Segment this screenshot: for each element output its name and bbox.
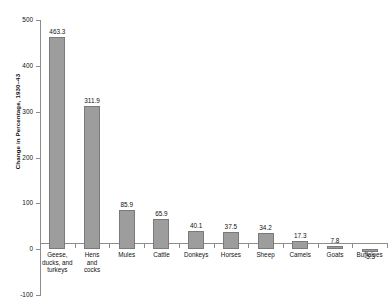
y-axis-tick <box>36 158 41 159</box>
x-axis-tick <box>214 243 215 248</box>
x-axis-category-label: Buffaloes <box>346 251 389 259</box>
x-axis-tick <box>283 243 284 248</box>
y-axis-tick <box>36 249 41 250</box>
y-axis-tick <box>36 66 41 67</box>
bar-value-label: 65.9 <box>144 210 179 217</box>
x-axis-tick <box>352 243 353 248</box>
bar <box>119 210 135 249</box>
bar <box>84 106 100 249</box>
bar-value-label: 311.9 <box>75 97 110 104</box>
y-axis-tick-label: -100 <box>7 291 33 298</box>
x-axis-tick <box>179 243 180 248</box>
y-axis-tick-label: 0 <box>7 246 33 253</box>
bar-value-label: 40.1 <box>179 222 214 229</box>
category-label-line: and <box>69 259 116 267</box>
bar-value-label: 37.5 <box>214 223 249 230</box>
bar-value-label: 34.2 <box>248 224 283 231</box>
y-axis-tick-label: 500 <box>7 16 33 23</box>
bar-value-label: 85.9 <box>109 201 144 208</box>
bar <box>292 241 308 249</box>
y-axis-tick <box>36 295 41 296</box>
y-axis-tick <box>36 112 41 113</box>
bar-chart: Change in Percentage, 1930–43 5004003002… <box>0 0 389 308</box>
x-axis-tick <box>144 243 145 248</box>
category-label-line: Buffaloes <box>346 251 389 259</box>
bar <box>49 37 65 249</box>
bar <box>153 219 169 249</box>
y-axis-tick-label: 100 <box>7 200 33 207</box>
x-axis-tick <box>318 243 319 248</box>
x-axis-tick <box>248 243 249 248</box>
x-axis-tick <box>387 243 388 248</box>
bar-value-label: 463.3 <box>40 28 75 35</box>
bar <box>258 233 274 249</box>
y-axis-tick-label: 400 <box>7 62 33 69</box>
bar <box>188 231 204 249</box>
bar-value-label: 17.3 <box>283 232 318 239</box>
bar <box>327 246 343 250</box>
y-axis-title: Change in Percentage, 1930–43 <box>14 57 21 187</box>
x-axis-tick <box>109 243 110 248</box>
bar-value-label: 7.8 <box>318 237 353 244</box>
y-axis-tick-label: 200 <box>7 154 33 161</box>
y-axis-tick <box>36 203 41 204</box>
category-label-line: cocks <box>69 266 116 274</box>
bar <box>223 232 239 249</box>
x-axis-tick <box>40 243 41 248</box>
plot-area: 5004003002001000-100 463.3311.985.965.94… <box>40 20 387 295</box>
y-axis-tick-label: 300 <box>7 108 33 115</box>
y-axis-tick <box>36 20 41 21</box>
x-axis-tick <box>75 243 76 248</box>
